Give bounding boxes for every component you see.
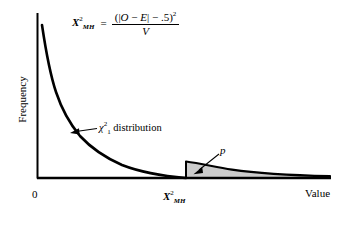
formula-num-abs-close-minus: | − — [147, 11, 161, 23]
formula-lhs: X2MH — [72, 16, 95, 31]
formula-denominator: V — [139, 25, 152, 37]
chi-square-distribution-figure: X2MH = (|O − E| − .5)2 V Frequency Value… — [0, 0, 349, 228]
formula-numerator: (|O − E| − .5)2 — [112, 11, 180, 24]
formula-num-expected: E — [140, 11, 147, 23]
formula-num-minus-first: − — [129, 11, 141, 23]
y-axis-label: Frequency — [17, 64, 28, 136]
tick-label-superscript: 2 — [170, 189, 174, 197]
formula-num-superscript: 2 — [173, 10, 177, 18]
tick-label-subscript: MH — [174, 197, 186, 205]
formula-num-continuity-correction: .5) — [161, 11, 173, 23]
density-curve — [42, 25, 186, 178]
x-axis-label: Value — [305, 188, 330, 199]
density-curve-join — [150, 162, 186, 171]
p-value-annotation-label: p — [220, 145, 226, 156]
formula-lhs-subscript: MH — [83, 23, 95, 31]
formula-xmh: X2MH = (|O − E| − .5)2 V — [72, 11, 179, 37]
formula-fraction: (|O − E| − .5)2 V — [112, 11, 180, 37]
formula-num-observed: O — [121, 11, 129, 23]
critical-value-tick-label: X2MH — [163, 190, 186, 205]
distribution-word: distribution — [111, 122, 162, 133]
formula-equals-sign: = — [101, 18, 107, 29]
distribution-annotation-label: χ21 distribution — [99, 121, 162, 136]
origin-tick-label: 0 — [32, 189, 38, 200]
